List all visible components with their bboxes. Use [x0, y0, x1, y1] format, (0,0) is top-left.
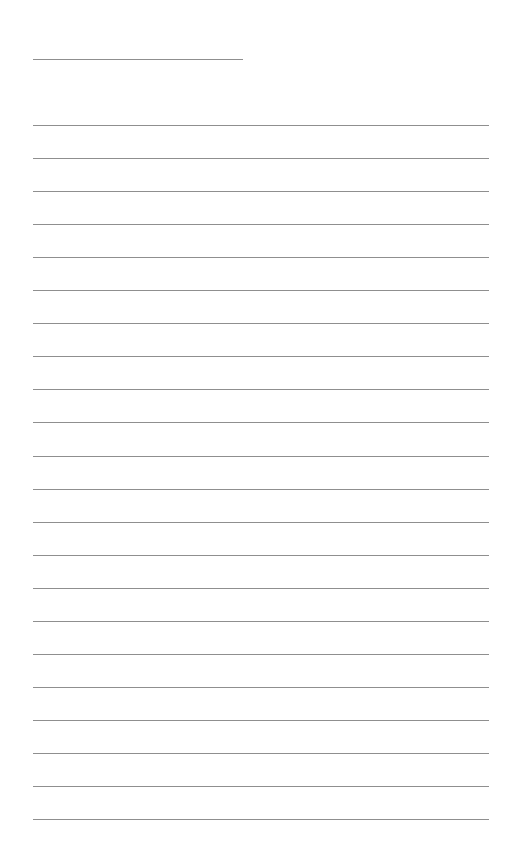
ruled-line [33, 356, 489, 357]
ruled-line [33, 456, 489, 457]
ruled-line [33, 654, 489, 655]
ruled-line [33, 323, 489, 324]
ruled-line [33, 489, 489, 490]
title-write-line [33, 59, 243, 60]
ruled-line [33, 191, 489, 192]
ruled-line [33, 257, 489, 258]
ruled-line [33, 753, 489, 754]
ruled-line [33, 125, 489, 126]
ruled-line [33, 422, 489, 423]
ruled-line [33, 522, 489, 523]
ruled-line [33, 224, 489, 225]
ruled-line [33, 290, 489, 291]
ruled-line [33, 687, 489, 688]
ruled-line [33, 621, 489, 622]
ruled-line [33, 720, 489, 721]
lined-paper-page [0, 0, 513, 862]
ruled-line [33, 158, 489, 159]
ruled-line [33, 389, 489, 390]
ruled-line [33, 588, 489, 589]
ruled-line [33, 786, 489, 787]
ruled-line [33, 555, 489, 556]
ruled-line [33, 819, 489, 820]
